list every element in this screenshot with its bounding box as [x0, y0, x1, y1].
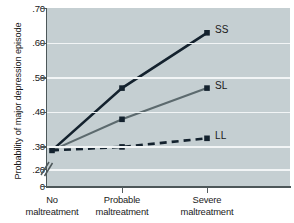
chart-figure: Probability of major depression episode … — [0, 0, 294, 223]
legend-label-sl: SL — [215, 80, 227, 91]
x-label-line-1: Severe — [193, 194, 222, 205]
series-markers-ss — [49, 30, 210, 153]
series-lines — [47, 8, 290, 186]
gridline-030 — [47, 146, 290, 148]
gridline-050 — [47, 77, 290, 79]
x-axis-line — [46, 186, 291, 188]
plot-area — [47, 8, 290, 186]
x-label-line-1: Probable — [104, 194, 140, 205]
x-label-line-1: No — [46, 194, 58, 205]
x-label-line-2: maltreatment — [96, 206, 149, 217]
gridline-060 — [47, 43, 290, 45]
legend-label-ll: LL — [215, 130, 226, 141]
x-label-line-2: maltreatment — [181, 206, 234, 217]
x-tick-mark-probable — [122, 187, 123, 193]
gridline-040 — [47, 112, 290, 114]
series-line-ss — [52, 33, 207, 151]
legend-label-ss: SS — [215, 24, 229, 35]
gridline-020 — [47, 169, 290, 171]
x-axis-label-severe-maltreatment: Severe maltreatment — [157, 194, 257, 217]
x-tick-mark-severe — [207, 187, 208, 193]
x-label-line-2: maltreatment — [26, 206, 79, 217]
axis-break-icon — [38, 158, 54, 180]
